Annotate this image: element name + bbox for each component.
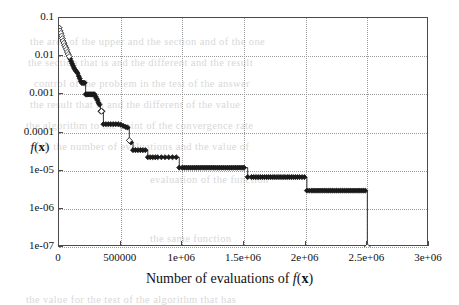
y-tick-label: 0.01 xyxy=(2,49,54,60)
y-tick-label: 1e-07 xyxy=(2,240,54,251)
x-axis-title-paren-close: ) xyxy=(308,271,313,286)
y-tick-label: 0.001 xyxy=(2,87,54,98)
x-tick-label: 2e+06 xyxy=(270,252,340,263)
data-point-marker xyxy=(174,155,179,160)
x-tick-label: 0 xyxy=(23,252,93,263)
data-point-marker xyxy=(364,244,370,247)
data-point-markers xyxy=(59,25,370,247)
plot-area xyxy=(58,17,428,246)
series-step-line xyxy=(59,28,367,247)
bleed-text-line: the value for the test of the algorithm … xyxy=(26,294,236,305)
y-tick-label: 1e-06 xyxy=(2,202,54,213)
y-axis-title-paren-close: ) xyxy=(45,139,49,154)
x-tick-label: 1e+06 xyxy=(146,252,216,263)
y-axis-title: f(x) xyxy=(18,139,62,155)
data-series-layer xyxy=(59,18,429,247)
y-tick-label: 0.0001 xyxy=(2,126,54,137)
y-tick-label: 0.1 xyxy=(2,11,54,22)
x-tick-label: 3e+06 xyxy=(393,252,459,263)
x-tick-label: 2.5e+06 xyxy=(331,252,401,263)
x-axis-title: Number of evaluations of f(x) xyxy=(0,271,459,287)
x-axis-title-prefix: Number of evaluations of xyxy=(146,271,293,286)
x-tick-label: 1.5e+06 xyxy=(208,252,278,263)
gridline-horizontal xyxy=(59,247,427,248)
x-tick-label: 500000 xyxy=(85,252,155,263)
series-best-fx xyxy=(59,18,429,247)
y-tick-label: 1e-05 xyxy=(2,164,54,175)
